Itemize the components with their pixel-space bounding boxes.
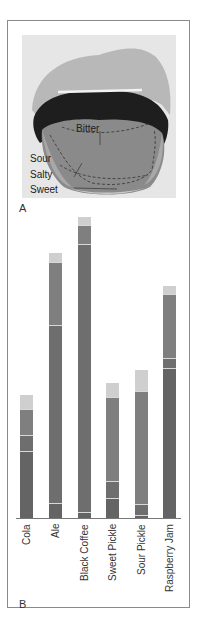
bar-cola: [20, 395, 33, 518]
bar-sour-pickle: [135, 370, 148, 518]
bar-segment: [20, 436, 33, 452]
bar-segment: [49, 504, 62, 518]
bar-segment: [106, 482, 119, 499]
bar-raspberry-jam: [163, 286, 176, 518]
x-tick-label: Raspberry Jam: [164, 524, 175, 592]
bar-segment: [78, 245, 91, 513]
bar-segment: [163, 295, 176, 359]
bar-segment: [163, 369, 176, 518]
bar-segment: [106, 383, 119, 398]
bar-segment: [49, 326, 62, 504]
bar-segment: [78, 217, 91, 226]
bar-sweet-pickle: [106, 383, 119, 518]
bar-segment: [135, 505, 148, 516]
x-tick-label: Ale: [50, 524, 61, 538]
chart-baseline: [16, 518, 181, 519]
bar-segment: [106, 398, 119, 482]
bar-segment: [49, 253, 62, 263]
bar-segment: [163, 286, 176, 295]
x-tick-label: Black Coffee: [79, 524, 90, 581]
bar-segment: [78, 226, 91, 245]
stacked-bar-chart: ColaAleBlack CoffeeSweet PickleSour Pick…: [0, 0, 197, 634]
bar-segment: [135, 392, 148, 505]
bar-black-coffee: [78, 217, 91, 518]
x-tick-label: Sweet Pickle: [107, 524, 118, 581]
bar-segment: [106, 499, 119, 518]
bar-segment: [163, 359, 176, 369]
x-tick-label: Sour Pickle: [136, 524, 147, 575]
x-tick-label: Cola: [21, 524, 32, 545]
panel-b-label: B: [19, 598, 26, 610]
bar-segment: [20, 410, 33, 436]
bar-segment: [20, 395, 33, 410]
bar-segment: [49, 263, 62, 326]
bar-segment: [135, 370, 148, 392]
bar-ale: [49, 253, 62, 518]
bar-segment: [20, 452, 33, 518]
